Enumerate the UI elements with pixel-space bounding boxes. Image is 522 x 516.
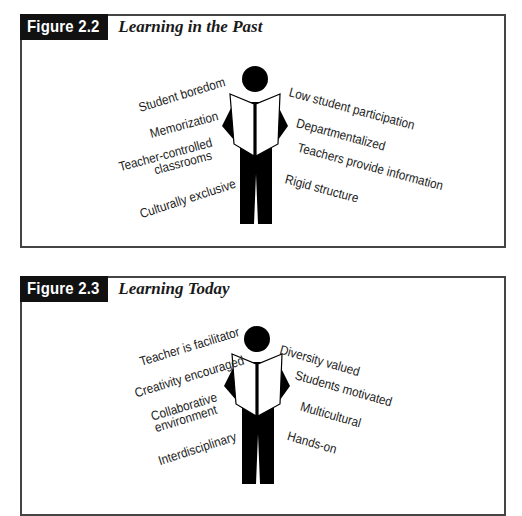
figure-header: Figure 2.3 Learning Today xyxy=(20,276,230,302)
figure-learning-today: Figure 2.3 Learning Today Teacher is fac… xyxy=(20,276,506,516)
figure-label: Figure 2.3 xyxy=(20,276,108,302)
figure-learning-past: Figure 2.2 Learning in the Past Student … xyxy=(20,14,506,248)
figure-title: Learning Today xyxy=(118,279,229,299)
figure-title: Learning in the Past xyxy=(118,17,262,37)
figure-label: Figure 2.2 xyxy=(20,14,108,40)
phrase-right: Multicultural xyxy=(299,400,363,430)
figure-header: Figure 2.2 Learning in the Past xyxy=(20,14,262,40)
